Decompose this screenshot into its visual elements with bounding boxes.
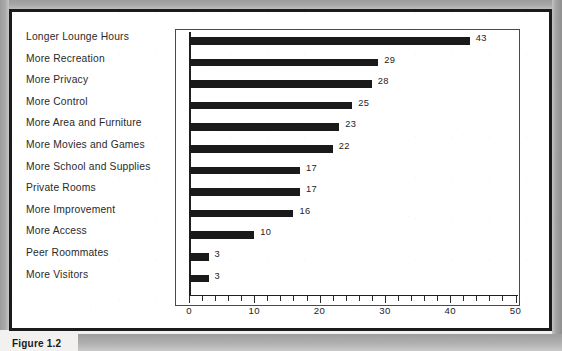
bar (189, 80, 372, 88)
category-label: Peer Roommates (26, 247, 178, 258)
x-axis-line (189, 295, 518, 296)
x-axis-minor-tick (437, 296, 438, 301)
bar-value-label: 29 (384, 55, 395, 65)
bar (189, 167, 300, 175)
bar-value-label: 17 (306, 163, 317, 173)
category-label: More Improvement (26, 204, 178, 215)
x-axis-minor-tick (241, 296, 242, 301)
x-axis-tick-label: 30 (379, 305, 390, 316)
bar (189, 188, 300, 196)
x-axis-minor-tick (202, 296, 203, 301)
x-axis-minor-tick (463, 296, 464, 301)
x-axis-minor-tick (307, 296, 308, 301)
bar (189, 231, 254, 239)
x-axis-minor-tick (280, 296, 281, 301)
category-label: More Visitors (26, 269, 178, 280)
category-label: More School and Supplies (26, 161, 178, 172)
x-axis-minor-tick (359, 296, 360, 301)
x-axis-minor-tick (411, 296, 412, 301)
x-axis-tick-label: 10 (249, 305, 260, 316)
figure-caption: Figure 1.2 (12, 338, 61, 349)
category-label: Longer Lounge Hours (26, 31, 178, 42)
scan-shadow-left (0, 0, 9, 330)
scan-shadow-right (552, 0, 562, 351)
x-axis-minor-tick (215, 296, 216, 301)
category-label: More Area and Furniture (26, 117, 178, 128)
chart-container: Longer Lounge HoursMore RecreationMore P… (12, 12, 549, 328)
x-axis-minor-tick (267, 296, 268, 301)
category-label: More Access (26, 225, 178, 236)
bar-value-label: 25 (358, 98, 369, 108)
x-axis-minor-tick (293, 296, 294, 301)
plot-area: 4329282523221717161033 01020304050 (175, 29, 520, 306)
x-axis-major-tick (516, 296, 517, 303)
x-axis-major-tick (385, 296, 386, 303)
bar-value-label: 23 (345, 119, 356, 129)
bar (189, 102, 352, 110)
x-axis-major-tick (450, 296, 451, 303)
bar-value-label: 22 (339, 141, 350, 151)
x-axis-minor-tick (333, 296, 334, 301)
bar-value-label: 28 (378, 76, 389, 86)
x-axis-major-tick (189, 296, 190, 303)
x-axis-minor-tick (424, 296, 425, 301)
scan-shadow-bottom (78, 334, 562, 351)
x-axis-tick-label: 0 (186, 305, 192, 316)
bar (189, 123, 339, 131)
scanned-page: Longer Lounge HoursMore RecreationMore P… (0, 0, 562, 351)
bar (189, 37, 470, 45)
bar-value-label: 3 (215, 271, 220, 281)
category-label: More Privacy (26, 74, 178, 85)
scan-shadow-top (0, 0, 562, 9)
x-axis-minor-tick (228, 296, 229, 301)
x-axis-tick-label: 50 (510, 305, 521, 316)
bar (189, 145, 333, 153)
bar (189, 253, 209, 261)
bar-value-label: 17 (306, 184, 317, 194)
x-axis-minor-tick (502, 296, 503, 301)
bar (189, 275, 209, 283)
x-axis-tick-label: 40 (444, 305, 455, 316)
bar (189, 210, 293, 218)
bar (189, 59, 378, 67)
x-axis-major-tick (254, 296, 255, 303)
x-axis-minor-tick (346, 296, 347, 301)
bar-value-label: 3 (215, 249, 220, 259)
x-axis-minor-tick (489, 296, 490, 301)
category-label: More Movies and Games (26, 139, 178, 150)
bar-value-label: 43 (476, 33, 487, 43)
x-axis-minor-tick (476, 296, 477, 301)
category-label: Private Rooms (26, 182, 178, 193)
x-axis-major-tick (320, 296, 321, 303)
category-label-column: Longer Lounge HoursMore RecreationMore P… (26, 30, 178, 298)
category-label: More Recreation (26, 53, 178, 64)
x-axis-tick-label: 20 (314, 305, 325, 316)
figure-frame: Longer Lounge HoursMore RecreationMore P… (9, 9, 552, 331)
x-axis-minor-tick (398, 296, 399, 301)
bar-value-label: 10 (260, 227, 271, 237)
bar-value-label: 16 (299, 206, 310, 216)
x-axis-minor-tick (372, 296, 373, 301)
category-label: More Control (26, 96, 178, 107)
